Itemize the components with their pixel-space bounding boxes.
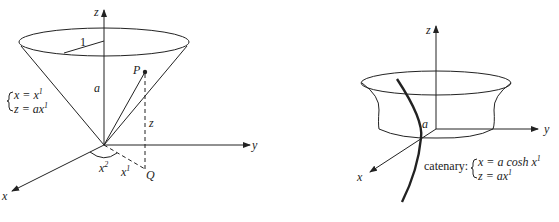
catenary-brace xyxy=(471,159,477,178)
catenoid-waist-curve xyxy=(379,129,493,138)
diagram-canvas: z y x 1 a P z Q x2 x1 x = x1 xyxy=(0,0,559,222)
height-label: a xyxy=(422,117,428,131)
x-axis-label: x xyxy=(1,189,8,203)
angle-label: x2 xyxy=(98,160,108,175)
op-line xyxy=(104,72,145,145)
z-axis-label: z xyxy=(93,5,99,19)
catenary-equation-line-1: x = a cosh x1 xyxy=(477,154,541,169)
height-label: a xyxy=(94,81,100,95)
angle-arc xyxy=(90,152,117,158)
x-axis-label: x xyxy=(356,170,363,184)
y-axis-label: y xyxy=(251,138,258,152)
z-axis-label: z xyxy=(425,23,431,37)
point-p-label: P xyxy=(132,63,141,77)
point-p-dot xyxy=(143,70,147,74)
equation-brace xyxy=(7,92,13,111)
z-coordinate-label: z xyxy=(148,116,154,130)
radius-label: 1 xyxy=(80,35,86,49)
cone-figure: z y x 1 a P z Q x2 x1 x = x1 xyxy=(1,5,258,203)
catenary-prefix: catenary: xyxy=(424,159,468,173)
catenoid-figure: z y x a catenary: x = a cosh x1 z = ax1 xyxy=(356,23,550,202)
cone-equation-line-1: x = x1 xyxy=(13,87,43,102)
cone-equation-line-2: z = ax1 xyxy=(13,101,48,116)
point-q-label: Q xyxy=(146,168,155,182)
radial-label: x1 xyxy=(120,164,130,179)
catenary-equation-line-2: z = ax1 xyxy=(477,168,512,183)
y-axis-label: y xyxy=(543,122,550,136)
